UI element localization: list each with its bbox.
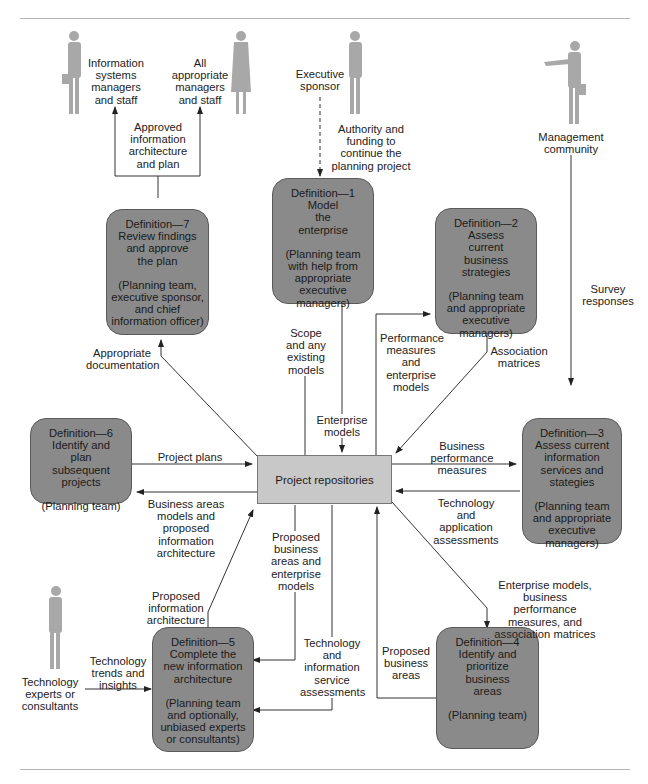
step-definition-5: Definition—5 Complete the new informatio… bbox=[152, 627, 254, 752]
actor-tech-experts-label: Technology experts or consultants bbox=[18, 676, 82, 713]
flow-perf-measures-models: Performance measures and enterprise mode… bbox=[380, 332, 442, 393]
step-definition-7: Definition—7 Review findings and approve… bbox=[106, 209, 209, 335]
step-definition-4: Definition—4 Identify and prioritize bus… bbox=[436, 627, 539, 749]
person-is-staff-icon bbox=[60, 30, 86, 118]
flow-enterprise-models-bpm-am: Enterprise models, business performance … bbox=[490, 579, 600, 640]
step-6-title: Definition—6 Identify and plan subsequen… bbox=[31, 427, 131, 488]
flow-project-plans: Project plans bbox=[150, 451, 230, 463]
step-3-who: (Planning team and appropriate executive… bbox=[523, 500, 621, 549]
step-4-title: Definition—4 Identify and prioritize bus… bbox=[437, 636, 538, 697]
flow-survey-responses: Survey responses bbox=[578, 283, 638, 307]
flow-enterprise-models: Enterprise models bbox=[312, 414, 372, 438]
flow-approved-plan: Approved information architecture and pl… bbox=[118, 121, 198, 170]
step-6-who: (Planning team) bbox=[31, 500, 131, 512]
actor-is-staff-label: Information systems managers and staff bbox=[88, 57, 144, 106]
step-4-who: (Planning team) bbox=[437, 709, 538, 721]
flow-association-matrices: Association matrices bbox=[488, 345, 550, 369]
actor-management-community-label: Management community bbox=[535, 131, 607, 155]
step-definition-3: Definition—3 Assess current information … bbox=[522, 418, 622, 544]
step-7-who: (Planning team, executive sponsor, and c… bbox=[107, 279, 208, 328]
step-7-title: Definition—7 Review findings and approve… bbox=[107, 218, 208, 267]
flow-tech-trends: Technology trends and insights bbox=[88, 655, 148, 692]
project-repositories-box: Project repositories bbox=[257, 455, 392, 504]
actor-executive-sponsor-label: Executive sponsor bbox=[290, 68, 350, 92]
person-management-community-icon bbox=[542, 40, 592, 128]
flow-appropriate-documentation: Appropriate documentation bbox=[86, 347, 158, 371]
flow-tech-info-service-assess: Technology and information service asses… bbox=[300, 637, 364, 698]
step-definition-2: Definition—2 Assess current business str… bbox=[435, 208, 537, 334]
step-1-title: Definition—1 Model the enterprise bbox=[273, 187, 373, 236]
step-definition-1: Definition—1 Model the enterprise (Plann… bbox=[272, 178, 374, 304]
step-2-title: Definition—2 Assess current business str… bbox=[436, 217, 536, 278]
flow-tech-app-assessments: Technology and application assessments bbox=[428, 497, 504, 546]
person-tech-experts-icon bbox=[42, 585, 68, 673]
step-2-who: (Planning team and appropriate executive… bbox=[436, 290, 536, 339]
step-5-title: Definition—5 Complete the new informatio… bbox=[153, 636, 253, 685]
flow-authority-funding: Authority and funding to continue the pl… bbox=[326, 123, 416, 172]
flow-scope-models: Scope and any existing models bbox=[284, 327, 328, 376]
flow-proposed-business-areas: Proposed business areas bbox=[380, 645, 432, 682]
actor-all-managers-label: All appropriate managers and staff bbox=[168, 57, 232, 106]
step-definition-6: Definition—6 Identify and plan subsequen… bbox=[30, 418, 132, 504]
step-5-who: (Planning team and optionally, unbiased … bbox=[153, 697, 253, 746]
step-3-title: Definition—3 Assess current information … bbox=[523, 427, 621, 488]
flow-proposed-bus-areas-models: Proposed business areas and enterprise m… bbox=[268, 531, 324, 592]
flow-proposed-info-arch: Proposed information architecture bbox=[144, 590, 208, 627]
flow-business-perf-measures: Business performance measures bbox=[410, 440, 514, 477]
flow-business-areas-models: Business areas models and proposed infor… bbox=[134, 498, 238, 559]
step-1-who: (Planning team with help from appropriat… bbox=[273, 248, 373, 309]
